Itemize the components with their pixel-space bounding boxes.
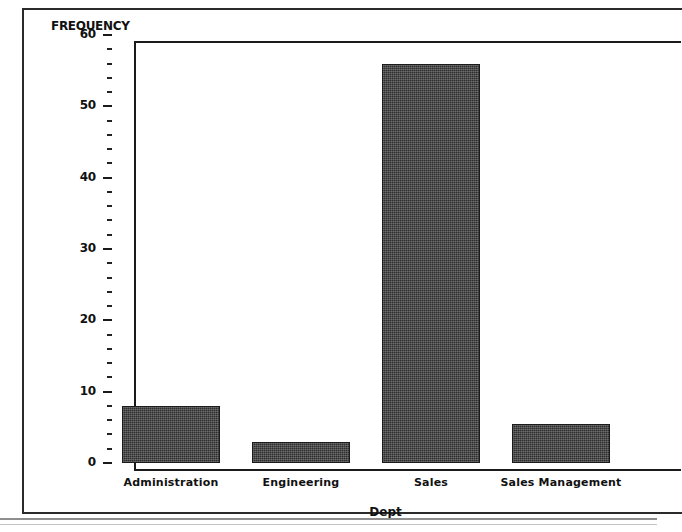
y-axis-minor-tick bbox=[107, 77, 112, 79]
x-axis-tick-label: Sales Management bbox=[471, 476, 651, 489]
bar bbox=[252, 442, 350, 463]
y-axis-minor-tick bbox=[107, 448, 112, 450]
y-axis-minor-tick bbox=[107, 120, 112, 122]
bar bbox=[382, 64, 480, 463]
chart-frame: FREQUENCY 0102030405060 AdministrationEn… bbox=[22, 8, 682, 514]
y-axis-minor-tick bbox=[107, 262, 112, 264]
y-axis-tick-label: 0 bbox=[56, 455, 96, 469]
y-axis-minor-tick bbox=[107, 405, 112, 407]
scan-artifact-rule-bottom bbox=[0, 518, 657, 520]
y-axis-minor-tick bbox=[107, 334, 112, 336]
y-axis-tick-label: 20 bbox=[56, 312, 96, 326]
y-axis-major-tick bbox=[103, 462, 112, 464]
y-axis-minor-tick bbox=[107, 376, 112, 378]
y-axis-minor-tick bbox=[107, 91, 112, 93]
bar bbox=[122, 406, 220, 463]
y-axis-minor-tick bbox=[107, 348, 112, 350]
y-axis-minor-tick bbox=[107, 433, 112, 435]
y-axis-minor-tick bbox=[107, 305, 112, 307]
y-axis-tick-label: 10 bbox=[56, 384, 96, 398]
y-axis-major-tick bbox=[103, 34, 112, 36]
y-axis-tick-label: 50 bbox=[56, 98, 96, 112]
y-axis-minor-tick bbox=[107, 362, 112, 364]
y-axis-tick-label: 60 bbox=[56, 27, 96, 41]
y-axis-minor-tick bbox=[107, 291, 112, 293]
x-axis-title: Dept bbox=[286, 505, 486, 519]
y-axis-major-tick bbox=[103, 248, 112, 250]
y-axis-minor-tick bbox=[107, 148, 112, 150]
y-axis-minor-tick bbox=[107, 234, 112, 236]
y-axis-tick-label: 30 bbox=[56, 241, 96, 255]
y-axis-major-tick bbox=[103, 391, 112, 393]
y-axis-minor-tick bbox=[107, 63, 112, 65]
y-axis-minor-tick bbox=[107, 134, 112, 136]
y-axis-major-tick bbox=[103, 105, 112, 107]
y-axis-minor-tick bbox=[107, 205, 112, 207]
y-axis-minor-tick bbox=[107, 162, 112, 164]
y-axis-minor-tick bbox=[107, 191, 112, 193]
y-axis-minor-tick bbox=[107, 419, 112, 421]
scan-artifact-rule-bottom-secondary bbox=[0, 524, 657, 525]
y-axis-tick-label: 40 bbox=[56, 170, 96, 184]
y-axis-minor-tick bbox=[107, 277, 112, 279]
y-axis-minor-tick bbox=[107, 48, 112, 50]
bar bbox=[512, 424, 610, 463]
y-axis-minor-tick bbox=[107, 219, 112, 221]
y-axis-major-tick bbox=[103, 319, 112, 321]
y-axis-major-tick bbox=[103, 177, 112, 179]
